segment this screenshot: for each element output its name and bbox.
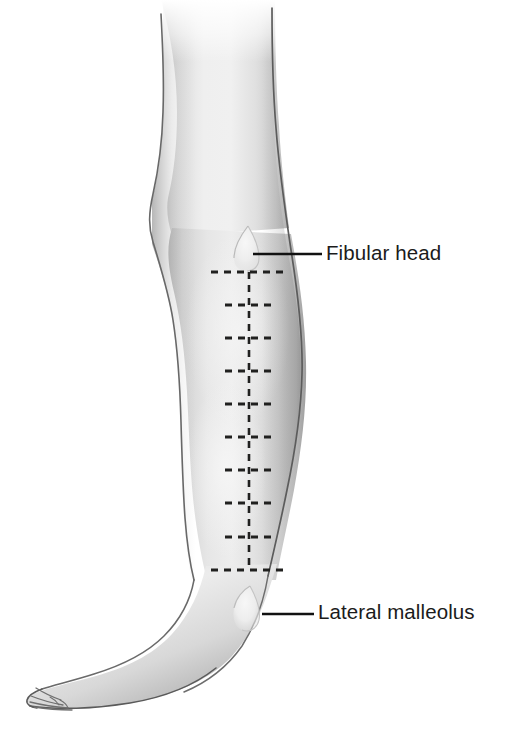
anterior-edge-shadow [152,0,196,600]
label-lateral-malleolus: Lateral malleolus [318,602,475,623]
anatomy-figure: Fibular head Lateral malleolus [0,0,506,730]
foot-segment [27,564,277,709]
top-fade [140,0,300,62]
label-fibular-head: Fibular head [326,243,441,264]
